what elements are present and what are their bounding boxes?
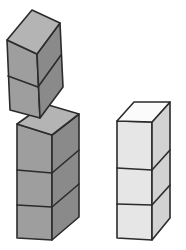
tilted-block [7, 10, 63, 118]
right-stack-front-face [117, 121, 152, 240]
left-stack [17, 104, 79, 240]
left-stack-side-face [52, 114, 79, 240]
right-stack-front-divider-2 [117, 204, 152, 205]
right-stack-side-face [152, 102, 170, 240]
illustration-canvas [0, 0, 186, 250]
cube-stacks-illustration [0, 0, 186, 250]
left-stack-front-face [17, 124, 52, 240]
right-stack [117, 102, 170, 240]
